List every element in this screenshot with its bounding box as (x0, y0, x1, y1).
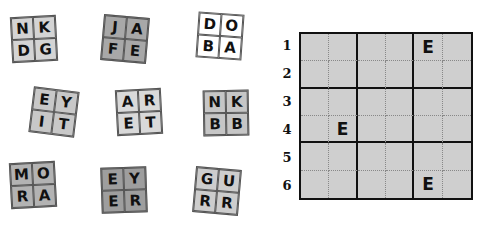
tile-letter: Y (54, 90, 79, 115)
board-cell[interactable] (386, 171, 414, 198)
tile-letter: B (204, 113, 226, 135)
tile-letter: A (116, 90, 139, 113)
tile-letter: E (123, 39, 147, 63)
tile-letter: A (125, 17, 149, 41)
letter-tile[interactable]: GURR (192, 166, 242, 216)
tile-letter: K (226, 91, 248, 113)
board-cell[interactable] (301, 116, 329, 143)
board-cell[interactable] (358, 61, 386, 88)
board-cell[interactable] (414, 89, 442, 116)
board-cell[interactable] (414, 61, 442, 88)
tile-letter: F (101, 37, 125, 61)
tile-letter: E (102, 190, 125, 213)
board-cell[interactable] (414, 143, 442, 170)
letter-tile[interactable]: EYIT (28, 86, 79, 137)
tile-letter: R (215, 191, 239, 215)
letter-tile[interactable]: JAFE (100, 14, 150, 64)
tile-letter: B (226, 113, 248, 135)
letter-tile[interactable]: NKBB (203, 90, 250, 137)
tile-letter: N (11, 17, 34, 40)
tile-letter: R (138, 89, 161, 112)
board-cell[interactable] (329, 61, 357, 88)
tile-letter: U (217, 169, 241, 193)
board-cell[interactable] (329, 89, 357, 116)
tile-letter: D (198, 13, 221, 36)
letter-tile[interactable]: MORA (9, 161, 57, 209)
board-cell[interactable] (386, 116, 414, 143)
board-cell[interactable] (386, 34, 414, 61)
board-cell[interactable]: E (329, 116, 357, 143)
tile-letter: J (103, 15, 127, 39)
tile-letter: O (32, 162, 55, 185)
row-label: 2 (282, 66, 292, 81)
row-label: 6 (282, 178, 292, 193)
tile-letter: K (33, 16, 56, 39)
board-cell[interactable] (301, 89, 329, 116)
tile-letter: R (193, 189, 217, 213)
board-cell[interactable] (301, 171, 329, 198)
board-cell[interactable] (443, 34, 471, 61)
board-cell[interactable] (301, 34, 329, 61)
letter-tile[interactable]: EYER (100, 166, 148, 214)
board-cell[interactable] (443, 143, 471, 170)
board-cell[interactable] (358, 171, 386, 198)
tile-letter: R (11, 185, 34, 208)
board-cell[interactable] (386, 61, 414, 88)
board-cell[interactable] (301, 143, 329, 170)
tile-letter: E (101, 168, 124, 191)
tile-letter: A (218, 36, 241, 59)
board-cell[interactable] (301, 61, 329, 88)
board-cell[interactable] (329, 171, 357, 198)
board-cell[interactable] (358, 34, 386, 61)
board-cell[interactable] (443, 61, 471, 88)
tile-letter: I (29, 109, 54, 134)
tile-letter: E (117, 112, 140, 135)
tile-letter: R (124, 189, 147, 212)
tile-letter: E (32, 87, 57, 112)
tile-letter: A (33, 184, 56, 207)
tile-letter: M (10, 163, 33, 186)
board-cell[interactable] (443, 89, 471, 116)
letter-tile[interactable]: DOBA (195, 11, 244, 60)
board-cell[interactable] (414, 116, 442, 143)
row-label: 4 (282, 122, 292, 137)
board-cell[interactable] (386, 143, 414, 170)
tile-letter: N (204, 91, 226, 113)
row-label: 3 (282, 94, 292, 109)
tile-letter: D (12, 39, 35, 62)
tile-letter: Y (123, 167, 146, 190)
tile-letter: G (34, 38, 57, 61)
board-cell[interactable]: E (414, 171, 442, 198)
board-cell[interactable]: E (414, 34, 442, 61)
tile-letter: T (51, 112, 76, 137)
board-cell[interactable] (329, 143, 357, 170)
tile-letter: B (197, 34, 220, 57)
board-cell[interactable] (386, 89, 414, 116)
row-label: 5 (282, 150, 292, 165)
board-cell[interactable] (358, 116, 386, 143)
board-cell[interactable] (358, 89, 386, 116)
row-label: 1 (282, 38, 292, 53)
puzzle-board: EEE (299, 32, 473, 200)
board-cell[interactable] (358, 143, 386, 170)
board-cell[interactable] (443, 171, 471, 198)
tile-letter: O (220, 14, 243, 37)
letter-tile[interactable]: NKDG (10, 15, 58, 63)
board-cell[interactable] (443, 116, 471, 143)
tile-letter: G (195, 167, 219, 191)
board-cell[interactable] (329, 34, 357, 61)
letter-tile[interactable]: ARET (115, 88, 163, 136)
tile-letter: T (139, 111, 162, 134)
